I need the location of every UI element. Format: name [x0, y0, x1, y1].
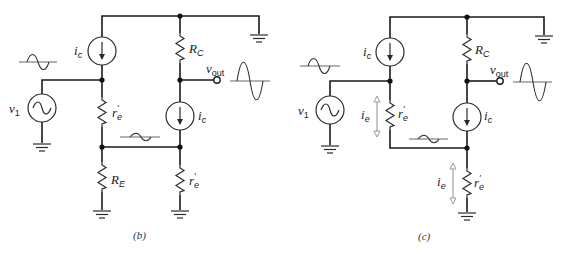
junction-dot — [177, 13, 182, 18]
circuit-figure: ic ic v1 re′ RE RC re′ vout — [0, 0, 572, 253]
panel-c: ic ic v1 re′ RC re′ ie ie — [298, 14, 553, 243]
junction-dot — [99, 144, 104, 149]
ground-icon — [33, 144, 51, 151]
ground-icon — [535, 36, 553, 43]
caption-b: (b) — [133, 229, 146, 242]
label-re: RE — [110, 172, 126, 189]
input-waveform-icon — [19, 55, 57, 70]
label-vout: vout — [206, 61, 225, 78]
label-vout: vout — [490, 62, 509, 79]
resistor-icon — [98, 97, 106, 127]
resistor-icon — [386, 100, 394, 130]
ground-icon — [458, 213, 476, 220]
label-rc: RC — [188, 41, 204, 58]
label-ic-top: ic — [74, 43, 83, 60]
output-waveform-icon — [513, 63, 552, 101]
junction-dot — [464, 78, 469, 83]
junction-dot — [177, 144, 182, 149]
ground-icon — [93, 211, 111, 218]
ground-icon — [171, 211, 189, 218]
junction-dot — [177, 77, 182, 82]
current-source-icon — [88, 37, 116, 65]
label-ic-bottom: ic — [198, 108, 207, 125]
resistor-icon — [98, 162, 106, 192]
junction-dot — [464, 14, 469, 19]
output-waveform-icon — [230, 62, 270, 100]
label-ic-top: ic — [363, 44, 372, 61]
label-v1: v1 — [298, 103, 309, 120]
bidirectional-current-arrow-icon — [374, 96, 380, 137]
label-ie-right: ie — [437, 174, 446, 191]
resistor-icon — [176, 165, 184, 195]
emitter-waveform-icon — [409, 135, 448, 143]
current-source-icon — [166, 102, 194, 130]
ac-source-icon — [316, 96, 344, 124]
current-source-icon — [453, 103, 481, 131]
ground-icon — [250, 35, 268, 42]
label-ie-left: ie — [361, 107, 370, 124]
label-re-prime-left: re′ — [112, 103, 122, 122]
label-re-prime-right: re′ — [474, 173, 484, 192]
label-ic-bottom: ic — [484, 108, 493, 125]
resistor-icon — [176, 33, 184, 63]
panel-b: ic ic v1 re′ RE RC re′ vout — [9, 13, 270, 242]
label-v1: v1 — [9, 101, 20, 118]
junction-dot — [387, 78, 392, 83]
input-waveform-icon — [300, 59, 340, 74]
junction-dot — [464, 145, 469, 150]
emitter-waveform-icon — [120, 133, 160, 141]
label-re-prime-right: re′ — [189, 171, 199, 190]
label-rc: RC — [474, 42, 490, 59]
junction-dot — [99, 77, 104, 82]
current-source-icon — [376, 38, 404, 66]
bidirectional-current-arrow-icon — [450, 163, 456, 204]
resistor-icon — [463, 34, 471, 64]
ac-source-icon — [28, 94, 56, 122]
caption-c: (c) — [418, 230, 431, 243]
resistor-icon — [463, 168, 471, 198]
label-re-prime-left: re′ — [398, 104, 408, 123]
ground-icon — [321, 146, 339, 153]
